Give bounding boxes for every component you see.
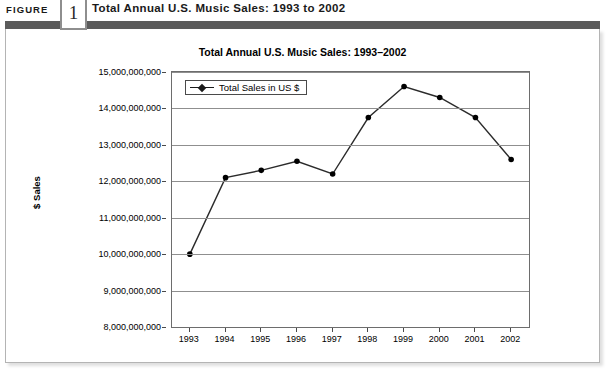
data-point-marker (294, 158, 300, 164)
y-axis-tick-mark (162, 72, 166, 73)
y-axis-tick-mark (162, 218, 166, 219)
grid-line (172, 145, 529, 146)
y-axis-tick-label: 9,000,000,000 (103, 286, 161, 296)
y-axis-tick-label: 13,000,000,000 (98, 140, 161, 150)
x-axis-tick-label: 1999 (393, 334, 413, 344)
x-axis-tick-label: 1996 (286, 334, 306, 344)
y-axis-tick-label: 14,000,000,000 (98, 103, 161, 113)
figure-header: FIGURE 1 Total Annual U.S. Music Sales: … (0, 0, 607, 22)
y-axis-tick-mark (162, 181, 166, 182)
x-axis-tick-label: 2000 (429, 334, 449, 344)
data-point-marker (473, 115, 479, 121)
y-axis-tick-labels: 15,000,000,00014,000,000,00013,000,000,0… (6, 71, 166, 328)
figure-container: FIGURE 1 Total Annual U.S. Music Sales: … (0, 0, 607, 373)
plot-area: Total Sales in US $ (171, 71, 530, 328)
x-axis-tick-label: 1994 (215, 334, 235, 344)
figure-caption: Total Annual U.S. Music Sales: 1993 to 2… (92, 2, 345, 14)
x-axis-tick-mark (225, 328, 226, 332)
grid-line (172, 181, 529, 182)
y-axis-tick-mark (162, 291, 166, 292)
figure-number-box: 1 (60, 0, 87, 30)
y-axis-tick-label: 12,000,000,000 (98, 176, 161, 186)
data-point-marker (223, 175, 229, 181)
grid-line (172, 254, 529, 255)
data-point-marker (437, 95, 443, 101)
x-axis-tick-mark (296, 328, 297, 332)
x-axis-tick-mark (260, 328, 261, 332)
y-axis-tick-mark (162, 327, 166, 328)
y-axis-tick-mark (162, 254, 166, 255)
grid-line (172, 218, 529, 219)
x-axis-tick-mark (367, 328, 368, 332)
x-axis-tick-labels: 1993199419951996199719981999200020012002 (171, 328, 530, 352)
y-axis-tick-label: 8,000,000,000 (103, 322, 161, 332)
data-point-marker (366, 115, 372, 121)
y-axis-tick-label: 11,000,000,000 (99, 213, 161, 223)
data-point-marker (330, 171, 336, 177)
x-axis-tick-label: 1997 (322, 334, 342, 344)
x-axis-tick-label: 1995 (250, 334, 270, 344)
x-axis-tick-label: 2002 (500, 334, 520, 344)
x-axis-tick-label: 1998 (357, 334, 377, 344)
chart: Total Annual U.S. Music Sales: 1993–2002… (6, 29, 599, 362)
x-axis-tick-label: 2001 (464, 334, 484, 344)
y-axis-tick-mark (162, 145, 166, 146)
y-axis-tick-label: 15,000,000,000 (98, 67, 161, 77)
x-axis-tick-label: 1993 (179, 334, 199, 344)
grid-line (172, 108, 529, 109)
x-axis-tick-mark (189, 328, 190, 332)
series-line (190, 87, 511, 255)
figure-number: 1 (62, 0, 85, 28)
data-point-marker (508, 157, 514, 163)
y-axis-tick-mark (162, 108, 166, 109)
x-axis-tick-mark (439, 328, 440, 332)
data-series-line (172, 72, 529, 327)
x-axis-tick-mark (403, 328, 404, 332)
grid-line (172, 72, 529, 73)
grid-line (172, 291, 529, 292)
x-axis-tick-mark (510, 328, 511, 332)
data-point-marker (258, 168, 264, 174)
figure-panel: Total Annual U.S. Music Sales: 1993–2002… (5, 29, 600, 363)
x-axis-tick-mark (332, 328, 333, 332)
figure-label: FIGURE (6, 4, 49, 15)
data-point-marker (401, 84, 407, 90)
header-rule (5, 21, 600, 29)
y-axis-tick-label: 10,000,000,000 (98, 249, 161, 259)
x-axis-tick-mark (474, 328, 475, 332)
chart-title: Total Annual U.S. Music Sales: 1993–2002 (6, 46, 599, 58)
